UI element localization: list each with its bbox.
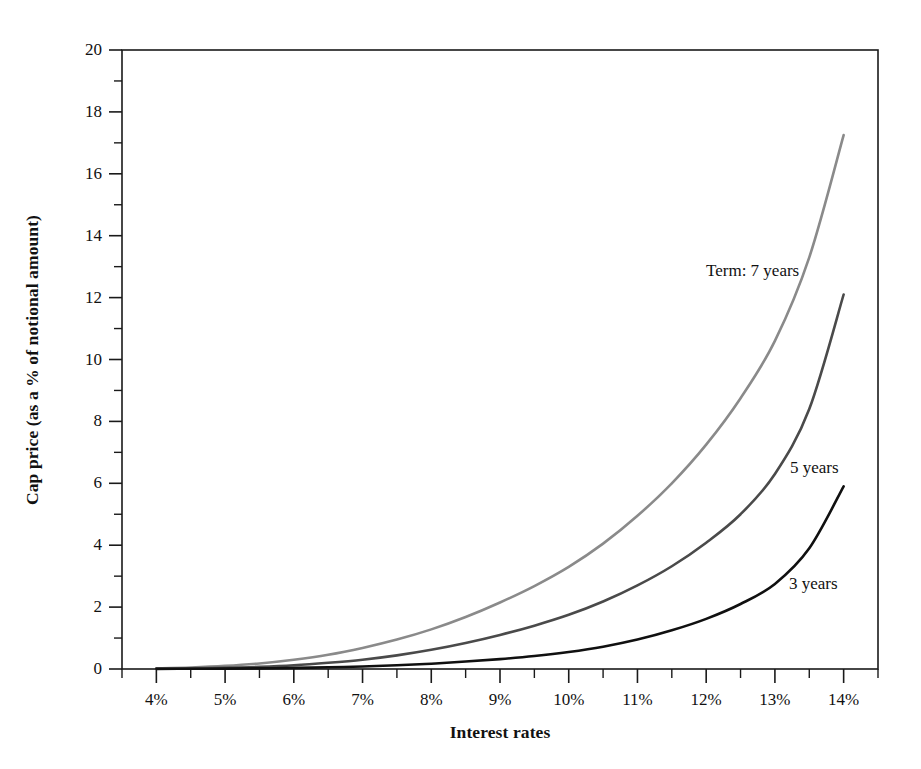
series-label: Term: 7 years [706,262,799,279]
y-tick-label: 2 [50,598,102,615]
x-axis-title: Interest rates [122,722,878,743]
chart-figure: Cap price (as a % of notional amount) In… [0,0,921,769]
y-tick-label: 20 [50,41,102,58]
data-series [156,135,843,669]
y-axis-title: Cap price (as a % of notional amount) [18,50,46,670]
y-tick-label: 14 [50,227,102,244]
y-tick-label: 6 [50,474,102,491]
y-tick-label: 8 [50,412,102,429]
y-tick-label: 0 [50,660,102,677]
series-label: 3 years [789,575,838,592]
y-tick-label: 18 [50,103,102,120]
y-tick-label: 16 [50,165,102,182]
y-tick-label: 4 [50,536,102,553]
series-label: 5 years [790,459,839,476]
axis-ticks [109,50,878,683]
y-tick-label: 10 [50,351,102,368]
chart-plot-area [0,0,921,769]
y-tick-label: 12 [50,289,102,306]
x-tick-label: 14% [804,691,884,708]
